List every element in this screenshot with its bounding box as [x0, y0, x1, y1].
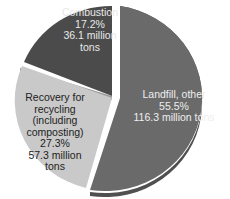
landfill-value: 116.3 million tons	[118, 112, 230, 124]
combustion-label: Combustion 17.2% 36.1 million tons	[48, 7, 132, 53]
landfill-title: Landfill, other	[118, 89, 230, 101]
combustion-value: 36.1 million	[48, 30, 132, 42]
combustion-unit: tons	[48, 42, 132, 54]
landfill-label: Landfill, other 55.5% 116.3 million tons	[118, 89, 230, 124]
combustion-title: Combustion	[48, 7, 132, 19]
recovery-percent: 27.3%	[10, 138, 100, 150]
recovery-title-3: (including	[10, 115, 100, 127]
recovery-label: Recovery for recycling (including compos…	[10, 92, 100, 173]
recovery-unit: tons	[10, 161, 100, 173]
recovery-title-1: Recovery for	[10, 92, 100, 104]
